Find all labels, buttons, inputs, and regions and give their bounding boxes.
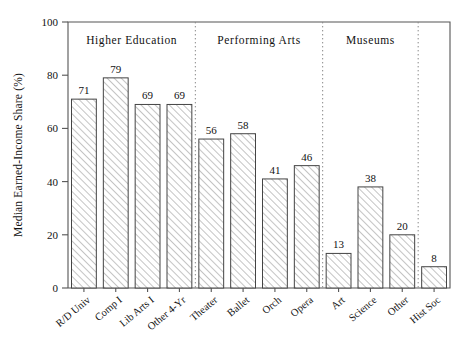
y-tick-label: 60 <box>47 122 59 134</box>
bar-chart: 020406080100 71796969565841461338208 R/D… <box>0 0 476 352</box>
bar <box>422 267 447 288</box>
group-heading: Higher Education <box>86 34 177 47</box>
bar <box>199 139 224 288</box>
x-tick-label: Orch <box>260 294 284 316</box>
y-tick-label: 80 <box>47 69 59 81</box>
y-tick-label: 100 <box>42 16 59 28</box>
x-tick-label: Science <box>347 294 379 324</box>
x-tick-label: Art <box>329 294 347 311</box>
bar-value-label: 20 <box>397 220 409 232</box>
group-heading: Performing Arts <box>217 34 300 47</box>
x-tick-label: R/D Univ <box>54 294 93 329</box>
x-tick-label: Ballet <box>225 294 251 319</box>
bar-value-label: 69 <box>174 89 186 101</box>
group-heading-labels: Higher EducationPerforming ArtsMuseums <box>86 34 395 47</box>
bar-series <box>72 78 447 288</box>
bar <box>358 187 383 288</box>
x-tick-label: Theater <box>188 294 220 323</box>
bar <box>390 235 415 288</box>
bar-value-label: 13 <box>333 238 345 250</box>
bar-value-label: 71 <box>78 84 89 96</box>
bar-value-labels: 71796969565841461338208 <box>78 63 437 264</box>
bar <box>263 179 288 288</box>
group-heading: Museums <box>346 34 395 46</box>
bar <box>72 99 97 288</box>
x-tick-label: Opera <box>288 294 315 319</box>
y-axis-title: Median Earned-Income Share (%) <box>12 73 25 237</box>
bar <box>167 104 192 288</box>
y-tick-label: 40 <box>47 176 59 188</box>
x-tick-label: Hist Soc <box>408 294 443 326</box>
bar-value-label: 41 <box>269 164 280 176</box>
bar-value-label: 69 <box>142 89 154 101</box>
bar-value-label: 56 <box>206 124 218 136</box>
y-axis-ticks: 020406080100 <box>42 16 69 294</box>
bar <box>103 78 128 288</box>
chart-canvas: 020406080100 71796969565841461338208 R/D… <box>0 0 476 352</box>
x-axis-category-labels: R/D UnivComp ILib Arts IOther 4-YrTheate… <box>54 288 443 332</box>
x-tick-label: Other <box>385 294 411 318</box>
bar-value-label: 79 <box>110 63 122 75</box>
bar <box>135 104 160 288</box>
y-tick-label: 0 <box>53 282 59 294</box>
bar <box>231 134 256 288</box>
bar-value-label: 8 <box>431 252 437 264</box>
bar-value-label: 46 <box>301 151 313 163</box>
bar-value-label: 58 <box>238 119 250 131</box>
bar <box>326 253 351 288</box>
bar-value-label: 38 <box>365 172 377 184</box>
y-tick-label: 20 <box>47 229 59 241</box>
bar <box>294 166 319 288</box>
